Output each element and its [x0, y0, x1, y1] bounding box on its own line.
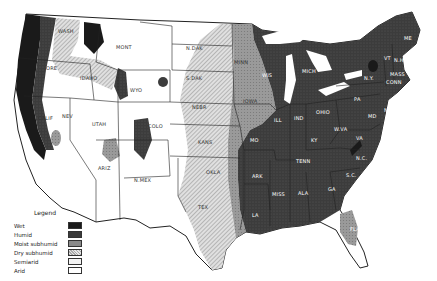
- state-label-mich: MICH: [302, 68, 316, 74]
- state-label-nc: N.C.: [356, 155, 367, 161]
- state-label-idaho: IDAHO: [80, 75, 97, 81]
- state-label-iowa: IOWA: [243, 98, 258, 104]
- state-label-nh: N.H.: [394, 57, 406, 63]
- state-label-sc: S.C.: [346, 172, 357, 178]
- state-label-ark: ARK: [252, 173, 263, 179]
- state-label-wva: W.VA: [334, 126, 348, 132]
- state-label-conn: CONN: [386, 79, 402, 85]
- state-label-la: LA: [252, 212, 259, 218]
- legend-item-wet: Wet: [14, 222, 114, 230]
- state-label-ariz: ARIZ: [98, 165, 111, 171]
- legend-item-arid: Arid: [14, 267, 114, 275]
- state-label-calif: CALIF: [38, 115, 53, 121]
- legend-label: Semiarid: [14, 258, 38, 266]
- state-label-sdak: S.DAK: [186, 75, 203, 81]
- state-label-minn: MINN: [234, 59, 248, 65]
- state-label-okla: OKLA: [206, 169, 221, 175]
- state-label-vt: VT: [384, 55, 392, 61]
- state-label-ore: ORE: [46, 65, 57, 71]
- state-label-fla: FLA: [350, 226, 360, 232]
- state-label-me: ME: [404, 35, 412, 41]
- zone-mountain-nevada: [51, 130, 61, 146]
- zone-humid-east: [238, 12, 420, 234]
- state-label-nev: NEV: [62, 113, 73, 119]
- state-label-md: MD: [368, 113, 377, 119]
- state-label-nj: N.J.: [384, 107, 393, 113]
- legend-label: Moist subhumid: [14, 240, 58, 248]
- map-legend: Legend Wet Humid Moist subhumid Dry subh…: [14, 209, 134, 279]
- state-label-wyo: WYO: [130, 87, 142, 93]
- state-label-nmex: N.MEX: [134, 177, 152, 183]
- legend-label: Arid: [14, 267, 25, 275]
- state-label-tenn: TENN: [295, 158, 311, 164]
- state-label-ga: GA: [328, 186, 336, 192]
- legend-label: Dry subhumid: [14, 249, 53, 257]
- state-label-va: VA: [356, 135, 363, 141]
- legend-swatch-arid: [68, 267, 82, 274]
- legend-item-semiarid: Semiarid: [14, 258, 114, 266]
- state-label-tex: TEX: [197, 204, 209, 210]
- state-label-ohio: OHIO: [316, 109, 330, 115]
- state-label-ky: KY: [311, 137, 318, 143]
- state-label-utah: UTAH: [92, 121, 106, 127]
- zone-black-hills: [158, 77, 168, 87]
- state-label-ill: ILL: [274, 117, 282, 123]
- state-label-ndak: N.DAK: [186, 45, 203, 51]
- state-label-ny: N.Y.: [364, 75, 374, 81]
- legend-item-dry-subhumid: Dry subhumid: [14, 249, 114, 257]
- state-label-colo: COLO: [148, 123, 163, 129]
- legend-item-humid: Humid: [14, 231, 114, 239]
- legend-swatch-semiarid: [68, 258, 82, 265]
- legend-item-moist-subhumid: Moist subhumid: [14, 240, 114, 248]
- legend-swatch-dry-subhumid: [68, 249, 82, 256]
- state-label-miss: MISS: [272, 191, 285, 197]
- state-label-pa: PA: [354, 96, 361, 102]
- zone-wet-adirondacks: [368, 60, 378, 72]
- legend-label: Humid: [14, 231, 32, 239]
- legend-swatch-moist-subhumid: [68, 240, 82, 247]
- legend-title: Legend: [34, 209, 56, 216]
- state-label-mass: MASS: [390, 71, 405, 77]
- legend-label: Wet: [14, 222, 25, 230]
- state-label-wash: WASH: [58, 28, 74, 34]
- state-label-mo: MO: [250, 137, 259, 143]
- state-label-nebr: NEBR: [192, 104, 207, 110]
- state-label-wis: WIS: [262, 72, 272, 78]
- state-label-kans: KANS: [198, 139, 212, 145]
- legend-swatch-humid: [68, 231, 82, 238]
- state-label-mont: MONT: [116, 44, 133, 50]
- state-label-ala: ALA: [298, 190, 309, 196]
- state-label-ind: IND: [294, 115, 304, 121]
- legend-swatch-wet: [68, 222, 82, 229]
